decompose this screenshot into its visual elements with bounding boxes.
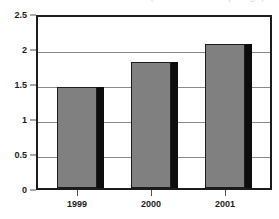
- x-tick-label-1999: 1999: [67, 199, 87, 209]
- bar-chart-figure: (cut off above top edge) 2.5 2 1.5: [0, 0, 279, 219]
- x-tick-label-2001: 2001: [215, 199, 235, 209]
- y-tick-mark-1-5: [30, 85, 36, 86]
- y-tick-label-1: 1: [22, 115, 27, 125]
- x-tick-mark-2001: [225, 190, 226, 196]
- x-axis: 1999 2000 2001: [0, 190, 279, 219]
- x-tick-mark-1999: [77, 190, 78, 196]
- y-tick-mark-0-5: [30, 155, 36, 156]
- y-tick-label-2-5: 2.5: [14, 10, 27, 20]
- y-tick-label-1-5: 1.5: [14, 80, 27, 90]
- y-tick-mark-2: [30, 50, 36, 51]
- bar-2000[interactable]: [131, 62, 171, 188]
- y-axis: 2.5 2 1.5 1 0.5 0: [0, 0, 36, 219]
- bar-1999[interactable]: [57, 87, 97, 188]
- y-tick-label-0-5: 0.5: [14, 150, 27, 160]
- x-tick-mark-2000: [151, 190, 152, 196]
- chart-title-fragment: (cut off above top edge): [150, 0, 275, 3]
- y-tick-mark-1: [30, 120, 36, 121]
- bar-2001[interactable]: [205, 44, 245, 188]
- plot-area: [36, 15, 272, 190]
- y-tick-mark-2-5: [30, 15, 36, 16]
- x-tick-label-2000: 2000: [141, 199, 161, 209]
- y-tick-label-2: 2: [22, 45, 27, 55]
